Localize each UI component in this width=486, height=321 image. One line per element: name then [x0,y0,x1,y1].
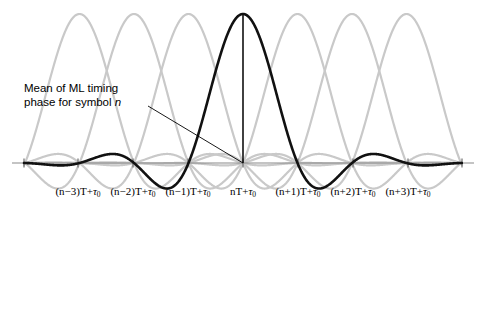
tick-label-prefix: (n+2)T+ [330,185,367,197]
tick-label-prefix: (n+3)T+ [385,185,422,197]
tick-label-2: (n+2)T+τ0 [330,185,375,199]
tick-label-subscript: 0 [207,190,211,199]
annotation-symbol: n [115,96,121,108]
tick-label-subscript: 0 [317,190,321,199]
figure-canvas: Mean of ML timing phase for symbol n (n−… [0,0,486,321]
annotation-text: Mean of ML timing phase for symbol n [24,82,121,109]
tick-label-subscript: 0 [152,190,156,199]
annotation-line-2-prefix: phase for symbol [24,96,115,108]
tick-label-prefix: (n−2)T+ [110,185,147,197]
tick-label-subscript: 0 [97,190,101,199]
tick-label-1: (n+1)T+τ0 [275,185,320,199]
tick-label-prefix: (n−3)T+ [55,185,92,197]
tick-label--1: (n−1)T+τ0 [165,185,210,199]
tick-label-prefix: (n+1)T+ [275,185,312,197]
tick-label-prefix: (n−1)T+ [165,185,202,197]
annotation-line-1: Mean of ML timing [24,82,121,96]
tick-label-prefix: nT+ [230,185,248,197]
tick-label-subscript: 0 [427,190,431,199]
waveform-plot [0,0,486,321]
annotation-line-2: phase for symbol n [24,96,121,110]
tick-label-subscript: 0 [252,190,256,199]
tick-label-3: (n+3)T+τ0 [385,185,430,199]
tick-label--2: (n−2)T+τ0 [110,185,155,199]
tick-label--3: (n−3)T+τ0 [55,185,100,199]
tick-label-0: nT+τ0 [230,185,256,199]
tick-label-subscript: 0 [372,190,376,199]
